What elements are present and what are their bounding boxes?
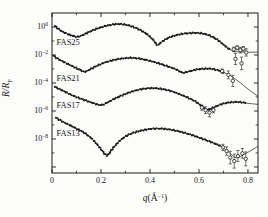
data-dot [91,138,93,140]
scatter-point-circle [235,46,238,49]
data-dot [83,99,85,101]
data-dot [169,128,171,130]
data-dot [173,67,175,69]
data-dot [191,70,193,72]
data-dot [214,143,216,145]
fit-line [55,87,258,110]
data-dot [164,38,166,40]
data-dot [149,36,151,38]
data-dot [101,103,103,105]
data-dot [194,100,196,102]
scatter-point-circle [208,111,211,114]
data-dot [103,104,105,106]
data-dot [174,35,176,37]
scatter-point-circle [225,149,228,152]
data-dot [115,97,117,99]
data-dot [105,25,107,27]
data-dot [194,135,196,137]
data-dot [130,26,132,28]
data-dot [127,57,129,59]
data-dot [146,59,148,61]
x-tick-label: 0.8 [243,176,253,185]
series-FAS13: FAS13 [55,117,258,168]
data-dot [110,24,112,26]
y-tick-label: 100 [37,21,48,32]
data-dot [164,127,166,129]
y-tick-label: 10−8 [34,133,48,144]
data-dot [225,45,227,47]
data-dot [124,93,126,95]
scatter-point-circle [212,108,215,111]
scatter-point-circle [229,156,232,159]
data-dot [65,32,67,34]
data-dot [225,102,227,104]
data-dot [152,87,154,89]
data-dot [135,130,137,132]
scatter-point-circle [221,146,224,149]
data-dot [59,59,61,61]
data-dot [171,90,173,92]
data-dot [209,68,211,70]
data-dot [156,62,158,64]
data-dot [85,99,87,101]
data-dot [57,88,59,90]
data-dot [62,121,64,123]
data-dot [80,98,82,100]
data-dot [111,149,113,151]
y-tick-label: 10−6 [34,105,48,116]
data-dot [129,92,131,94]
data-dot [169,36,171,38]
data-dot [155,87,157,89]
scatter-point-circle [204,108,207,111]
data-dot [88,100,90,102]
data-dot [202,33,204,35]
data-dot [181,71,183,73]
data-dot [133,27,135,29]
data-dot [54,86,56,88]
data-dot [60,30,62,32]
data-dot [179,131,181,133]
data-dot [85,132,87,134]
data-dot [217,104,219,106]
data-dot [197,32,199,34]
data-dot [159,128,161,130]
data-dot [178,93,180,95]
data-dot [117,58,119,60]
data-dot [66,123,68,125]
figure-container: 00.20.40.60.810010−210−410−610−8q(Å−1)R/… [0,0,268,217]
data-dot [119,140,121,142]
data-dot [228,48,230,50]
data-dot [222,102,224,104]
data-dot [122,58,124,60]
data-dot [156,127,158,129]
data-dot [115,23,117,25]
data-dot [83,132,85,134]
data-dot [78,98,80,100]
data-dot [102,151,104,153]
data-dot [128,24,130,26]
data-dot [106,102,108,104]
data-dot [136,58,138,60]
data-dot [202,138,204,140]
data-dot [59,119,61,121]
data-dot [93,102,95,104]
data-dot [55,57,57,59]
y-tick-label: 10−2 [34,49,48,60]
scatter-point-circle [236,154,239,157]
data-dot [206,68,208,70]
data-dot [75,96,77,98]
data-dot [90,67,92,69]
data-dot [156,44,158,46]
data-dot [70,34,72,36]
data-dot [176,69,178,71]
scatter-point-circle [231,79,234,82]
data-dot [232,101,234,103]
data-dot [206,140,208,142]
data-dot [164,65,166,67]
scatter-point-circle [240,62,243,65]
data-dot [137,131,139,133]
data-dot [151,61,153,63]
data-dot [107,61,109,63]
data-dot [182,33,184,35]
data-dot [192,134,194,136]
